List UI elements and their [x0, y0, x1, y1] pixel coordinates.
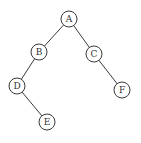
node-e: E [39, 114, 55, 130]
node-d: D [9, 78, 25, 94]
edges [17, 19, 122, 122]
node-b-label: B [36, 47, 43, 57]
node-e-label: E [44, 117, 51, 127]
node-f-label: F [119, 85, 125, 95]
node-a-label: A [65, 14, 73, 24]
node-d-label: D [13, 81, 20, 91]
node-c: C [86, 46, 102, 62]
node-c-label: C [91, 49, 98, 59]
node-f: F [114, 82, 130, 98]
binary-tree-diagram: A B C D F E [0, 0, 141, 143]
node-a: A [61, 11, 77, 27]
node-b: B [31, 44, 47, 60]
